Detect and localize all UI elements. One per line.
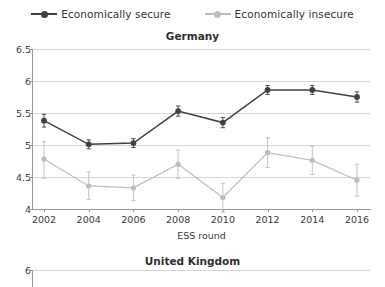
y-tick-label-germany-4-5: 4.5	[5, 172, 31, 183]
y-tick-label-uk-6: 6	[5, 265, 31, 276]
y-tick-label-germany-4: 4	[5, 204, 31, 215]
x-tick-mark-2006	[133, 209, 134, 212]
x-tick-label-2006: 2006	[113, 214, 153, 225]
data-point-marker	[86, 183, 91, 188]
panel-title-united-kingdom: United Kingdom	[0, 255, 385, 267]
x-tick-label-2016: 2016	[337, 214, 377, 225]
x-tick-label-2002: 2002	[24, 214, 64, 225]
y-tick-mark-uk-6	[29, 270, 32, 271]
data-point-marker	[310, 158, 315, 163]
legend-label-economically-secure: Economically secure	[61, 8, 170, 20]
chart-legend: Economically secure Economically insecur…	[0, 4, 385, 24]
panel-title-germany: Germany	[0, 30, 385, 42]
x-tick-mark-2002	[44, 209, 45, 212]
y-axis-uk	[32, 270, 33, 287]
data-point-marker	[309, 87, 315, 93]
data-point-marker	[131, 185, 136, 190]
data-point-marker	[265, 87, 271, 93]
series-lines-germany	[32, 49, 371, 209]
data-point-marker	[265, 150, 270, 155]
data-point-marker	[176, 162, 181, 167]
legend-marker-economically-secure	[31, 9, 57, 19]
x-tick-label-2008: 2008	[158, 214, 198, 225]
plot-area-germany: 44.555.566.5 200220042006200820102012201…	[32, 49, 371, 209]
y-tick-label-germany-5-5: 5.5	[5, 108, 31, 119]
data-point-marker	[354, 94, 360, 100]
plot-area-united-kingdom: 6	[32, 270, 371, 287]
legend-label-economically-insecure: Economically insecure	[235, 8, 354, 20]
data-point-marker	[86, 141, 92, 147]
legend-entry-economically-insecure: Economically insecure	[205, 8, 354, 20]
legend-entry-economically-secure: Economically secure	[31, 8, 170, 20]
y-tick-label-germany-6: 6	[5, 76, 31, 87]
x-tick-mark-2004	[89, 209, 90, 212]
x-tick-label-2014: 2014	[292, 214, 332, 225]
y-tick-label-germany-5: 5	[5, 140, 31, 151]
x-tick-label-2004: 2004	[69, 214, 109, 225]
data-point-marker	[131, 140, 137, 146]
chart-figure: Economically secure Economically insecur…	[0, 0, 385, 287]
legend-marker-economically-insecure	[205, 9, 231, 19]
y-tick-mark-germany-4	[29, 209, 32, 210]
data-point-marker	[354, 178, 359, 183]
x-tick-label-2010: 2010	[203, 214, 243, 225]
y-tick-label-germany-6-5: 6.5	[5, 44, 31, 55]
x-axis-germany	[32, 209, 371, 210]
data-point-marker	[220, 195, 225, 200]
x-axis-title: ESS round	[32, 230, 371, 241]
data-point-marker	[41, 118, 47, 124]
gridline-uk-6	[32, 270, 371, 271]
data-point-marker	[220, 120, 226, 126]
data-point-marker	[175, 108, 181, 114]
x-tick-mark-2012	[268, 209, 269, 212]
x-tick-mark-2014	[312, 209, 313, 212]
data-point-marker	[41, 156, 46, 161]
x-tick-label-2012: 2012	[248, 214, 288, 225]
x-tick-mark-2016	[357, 209, 358, 212]
x-tick-mark-2008	[178, 209, 179, 212]
series-line	[44, 90, 357, 144]
series-economically-secure	[41, 85, 360, 148]
